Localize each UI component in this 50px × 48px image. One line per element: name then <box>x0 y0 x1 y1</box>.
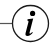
info-i-dot <box>30 11 35 16</box>
info-callout[interactable]: Information <box>0 0 50 48</box>
info-i-stem <box>25 19 33 36</box>
info-icon <box>0 0 50 48</box>
